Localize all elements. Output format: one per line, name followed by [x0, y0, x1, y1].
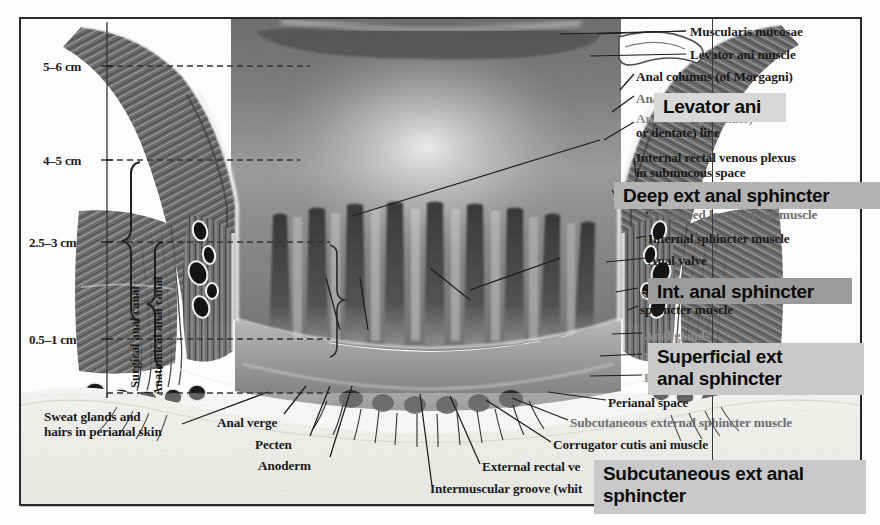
label-column-divider — [712, 19, 713, 504]
annotation-levator-ani[interactable]: Levator ani — [654, 93, 786, 122]
callout-intermuscular-groove: Intermuscular groove (whit — [430, 481, 582, 496]
callout-pecten: Pecten — [255, 437, 292, 452]
callout-anal-columns: Anal columns (of Morgagni) — [636, 69, 793, 84]
callout-corrugator-cutis-ani: Corrugator cutis ani muscle — [553, 437, 708, 452]
callout-anal-valve: Anal valve — [648, 253, 707, 268]
scale-label-0.5-1cm: 0.5–1 cm — [29, 332, 77, 348]
scale-label-5-6cm: 5–6 cm — [43, 59, 81, 75]
figure-page: 5–6 cm 4–5 cm 2.5–3 cm 0.5–1 cm Surgical… — [0, 0, 880, 525]
scale-label-2.5-3cm: 2.5–3 cm — [29, 235, 77, 251]
callout-conjoined-longitudinal: Conjoined longitudinal muscle — [648, 207, 817, 222]
annotation-int-anal-sphincter[interactable]: Int. anal sphincter — [648, 278, 852, 304]
callout-perianal-space: Perianal space — [608, 395, 688, 410]
callout-internal-sphincter-muscle: Internal sphincter muscle — [648, 231, 790, 246]
callout-anal-verge: Anal verge — [217, 415, 277, 430]
callout-superficial-ext-2: sphincter muscle — [640, 302, 733, 317]
annotation-superficial-ext-anal-sphincter[interactable]: Superficial ext anal sphincter — [648, 343, 864, 395]
callout-muscularis-mucosae: Muscularis mucosae — [690, 24, 803, 39]
callout-external-rectal-venous: External rectal ve — [482, 459, 580, 474]
callout-anoderm: Anoderm — [258, 458, 311, 473]
callout-subcutaneous-ext-sphincter: Subcutaneous external sphincter muscle — [570, 415, 792, 430]
callout-anorectal-line-2: or dentate) line — [636, 125, 720, 140]
callout-sweat-glands-1: Sweat glands and — [44, 409, 141, 424]
callout-levator-ani-muscle: Levator ani muscle — [690, 47, 796, 62]
callout-internal-rectal-plexus-1: Internal rectal venous plexus — [636, 150, 796, 165]
callout-sweat-glands-2: hairs in perianal skin — [44, 424, 162, 439]
bracket-label-anatomical-anal-canal: Anatomical anal canal — [151, 277, 166, 396]
callout-anal-glands: Anal glands — [644, 328, 710, 343]
callout-internal-rectal-plexus-2: in submucous space — [636, 165, 746, 180]
bracket-label-surgical-anal-canal: Surgical anal canal — [128, 286, 143, 388]
scale-label-4-5cm: 4–5 cm — [43, 153, 81, 169]
annotation-subcutaneous-ext-anal-sphincter[interactable]: Subcutaneous ext anal sphincter — [594, 460, 866, 514]
annotation-deep-ext-anal-sphincter[interactable]: Deep ext anal sphincter — [614, 182, 880, 209]
